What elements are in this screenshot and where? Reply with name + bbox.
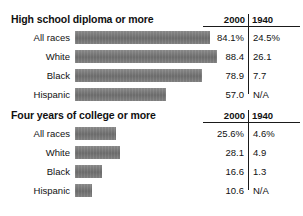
header-rule — [203, 26, 300, 27]
value-2000: 10.6 — [200, 185, 244, 196]
bar-track — [75, 146, 120, 159]
column-header-1940: 1940 — [252, 110, 292, 121]
value-1940: 4.9 — [253, 147, 299, 158]
value-1940: 26.1 — [253, 51, 299, 62]
panel-title: Four years of college or more — [11, 109, 156, 121]
panel-rows: All races 25.6% 4.6% White 28.1 4.9 Blac… — [0, 125, 303, 201]
value-2000: 16.6 — [200, 166, 244, 177]
table-row: Hispanic 10.6 N/A — [0, 182, 303, 201]
value-1940: N/A — [253, 89, 299, 100]
value-1940: 4.6% — [253, 128, 299, 139]
panel-header: Four years of college or more 2000 1940 — [0, 109, 303, 124]
bar-track — [75, 88, 166, 101]
value-1940: 7.7 — [253, 70, 299, 81]
bar-track — [75, 69, 202, 82]
bar — [75, 69, 202, 82]
row-label: Black — [0, 166, 70, 177]
value-2000: 88.4 — [200, 51, 244, 62]
panel-high-school: High school diploma or more 2000 1940 Al… — [0, 13, 303, 105]
panel-header: High school diploma or more 2000 1940 — [0, 13, 303, 28]
column-header-2000: 2000 — [205, 14, 245, 25]
bar — [75, 50, 217, 63]
row-label: All races — [0, 128, 70, 139]
value-1940: 24.5% — [253, 32, 299, 43]
row-label: Hispanic — [0, 89, 70, 100]
table-row: All races 84.1% 24.5% — [0, 29, 303, 48]
value-2000: 84.1% — [200, 32, 244, 43]
value-1940: N/A — [253, 185, 299, 196]
row-label: White — [0, 147, 70, 158]
table-row: Hispanic 57.0 N/A — [0, 86, 303, 105]
bar-track — [75, 50, 217, 63]
bar-track — [75, 31, 210, 44]
header-rule — [203, 122, 300, 123]
panel-college: Four years of college or more 2000 1940 … — [0, 109, 303, 201]
bar-track — [75, 165, 102, 178]
row-label: White — [0, 51, 70, 62]
panel-rows: All races 84.1% 24.5% White 88.4 26.1 Bl… — [0, 29, 303, 105]
bar — [75, 184, 92, 197]
table-row: White 88.4 26.1 — [0, 48, 303, 67]
column-header-1940: 1940 — [252, 14, 292, 25]
table-row: Black 78.9 7.7 — [0, 67, 303, 86]
row-label: Black — [0, 70, 70, 81]
table-row: Black 16.6 1.3 — [0, 163, 303, 182]
row-label: Hispanic — [0, 185, 70, 196]
value-2000: 28.1 — [200, 147, 244, 158]
bar-track — [75, 127, 116, 140]
cropped-source-line — [18, 0, 198, 5]
bar — [75, 165, 102, 178]
bar — [75, 146, 120, 159]
panel-title: High school diploma or more — [11, 13, 154, 25]
bar — [75, 31, 210, 44]
bar — [75, 88, 166, 101]
chart-sheet: High school diploma or more 2000 1940 Al… — [0, 0, 303, 216]
table-row: White 28.1 4.9 — [0, 144, 303, 163]
value-2000: 57.0 — [200, 89, 244, 100]
bar-track — [75, 184, 92, 197]
bar — [75, 127, 116, 140]
value-2000: 78.9 — [200, 70, 244, 81]
column-header-2000: 2000 — [205, 110, 245, 121]
value-2000: 25.6% — [200, 128, 244, 139]
table-row: All races 25.6% 4.6% — [0, 125, 303, 144]
value-1940: 1.3 — [253, 166, 299, 177]
row-label: All races — [0, 32, 70, 43]
